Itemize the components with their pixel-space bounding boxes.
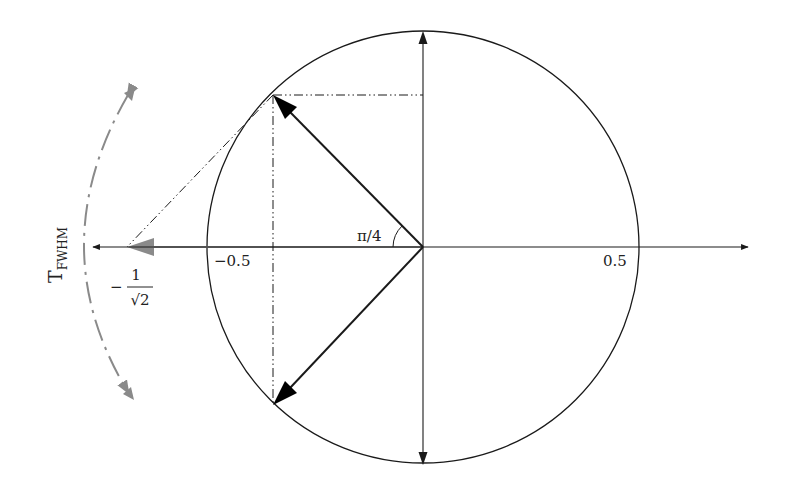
fraction-denominator: √2 xyxy=(130,291,149,309)
lower-phasor-vector xyxy=(290,247,423,388)
fraction-numerator: 1 xyxy=(131,266,141,284)
tick-label-positive: 0.5 xyxy=(603,252,627,270)
svg-text:TFWHM: TFWHM xyxy=(44,227,70,283)
angle-label: π/4 xyxy=(357,227,381,245)
neg-inv-sqrt2-label: − 1 √2 xyxy=(110,266,153,309)
fraction-sign: − xyxy=(110,278,123,296)
tfwhm-subscript: FWHM xyxy=(56,227,70,270)
tfwhm-label: TFWHM xyxy=(44,227,70,283)
vertical-axis-top-arrowhead xyxy=(419,31,428,44)
phasor-diagram: π/4 −0.5 0.5 TFWHM − 1 √2 xyxy=(0,0,785,496)
tick-label-negative: −0.5 xyxy=(214,252,250,270)
tfwhm-range-arc xyxy=(84,95,128,392)
diagonal-projection-line xyxy=(127,95,273,247)
tfwhm-arc-bottom-arrowhead xyxy=(123,387,134,400)
angle-arc xyxy=(393,226,402,247)
tfwhm-main: T xyxy=(44,270,66,283)
